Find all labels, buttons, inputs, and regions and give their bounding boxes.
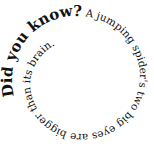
spiral-graphic: Did you know? A jumping spider's two big… — [0, 0, 154, 151]
spiral-heading: Did you know? — [0, 2, 82, 99]
spiral-fact-text: Did you know? A jumping spider's two big… — [0, 2, 150, 144]
